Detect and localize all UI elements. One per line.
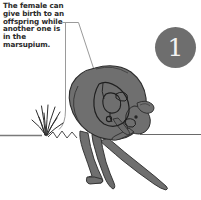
ground-scrub [48,131,77,138]
grass-tuft [32,105,63,136]
step-number-label: 1 [168,35,184,60]
step-number-badge: 1 [155,27,196,68]
illustration-page: The female can give birth to an offsprin… [0,0,201,200]
caption-text: The female can give birth to an offsprin… [3,2,69,49]
animal-eye [134,115,137,118]
